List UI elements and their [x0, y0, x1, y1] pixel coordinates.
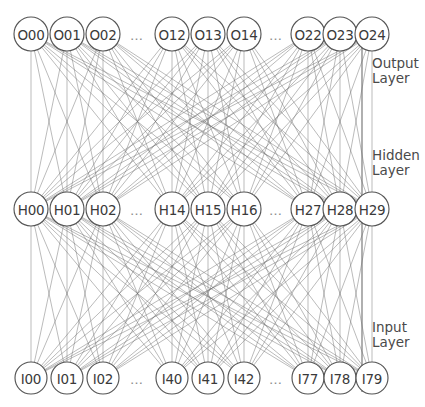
node-label: I02 — [93, 371, 113, 387]
node-label: O22 — [295, 27, 322, 43]
edge — [116, 219, 326, 369]
node-ellipsis: … — [269, 28, 283, 43]
edge — [46, 218, 295, 370]
edge — [183, 222, 298, 365]
output-layer-label-line1: Output — [372, 56, 419, 71]
edge — [184, 220, 359, 368]
node-label: O02 — [90, 27, 117, 43]
node-label: H28 — [327, 202, 353, 218]
node-label: I42 — [234, 371, 254, 387]
edge — [117, 219, 327, 369]
node-ellipsis: … — [130, 203, 144, 218]
edge — [218, 222, 330, 365]
edge — [252, 224, 332, 364]
edge — [182, 222, 297, 365]
node-label: I01 — [57, 371, 77, 387]
node-label: H29 — [359, 202, 385, 218]
node-label: I78 — [330, 371, 350, 387]
hidden-layer-label: HiddenLayer — [372, 148, 420, 178]
edge — [114, 222, 234, 366]
input-layer-label-line2: Layer — [372, 335, 410, 350]
node-label: H16 — [231, 202, 257, 218]
hidden-layer-label-line1: Hidden — [372, 148, 420, 163]
edge-group-input-to-hidden — [31, 217, 372, 371]
node-label: H00 — [18, 202, 44, 218]
node-label: H14 — [159, 202, 185, 218]
node-label: H01 — [54, 202, 80, 218]
edge — [254, 223, 362, 366]
node-label: I79 — [362, 371, 382, 387]
edge — [82, 217, 358, 370]
node-label: H02 — [90, 202, 116, 218]
node-ellipsis: … — [269, 203, 283, 218]
node-label: O12 — [159, 27, 186, 43]
edge — [218, 222, 330, 365]
node-label: O23 — [327, 27, 354, 43]
edge — [254, 223, 362, 366]
node-ellipsis: … — [130, 372, 144, 387]
edge — [252, 224, 332, 364]
edge — [109, 225, 166, 363]
node-label: I77 — [298, 371, 318, 387]
node-ellipsis: … — [130, 28, 144, 43]
network-diagram-canvas: O00O01O02…O12O13O14…O22O23O24H00H01H02…H… — [0, 0, 425, 407]
output-layer-label: OutputLayer — [372, 56, 419, 86]
hidden-layer-label-line2: Layer — [372, 163, 420, 178]
node-label: I00 — [21, 371, 41, 387]
input-layer-label-line1: Input — [372, 320, 410, 335]
node-label: I40 — [162, 371, 182, 387]
node-label: O13 — [195, 27, 222, 43]
node-label: O24 — [359, 27, 386, 43]
node-label: O00 — [18, 27, 45, 43]
node-label: H27 — [295, 202, 321, 218]
edge — [46, 217, 326, 370]
edge-group-hidden-to-output — [31, 42, 372, 201]
input-layer-label: InputLayer — [372, 320, 410, 350]
node-label: H15 — [195, 202, 221, 218]
network-diagram-svg: O00O01O02…O12O13O14…O22O23O24H00H01H02…H… — [0, 0, 425, 407]
node-label: O14 — [231, 27, 258, 43]
edge — [75, 223, 163, 364]
node-ellipsis: … — [269, 372, 283, 387]
output-layer-label-line2: Layer — [372, 71, 419, 86]
node-label: I41 — [198, 371, 218, 387]
node-label: O01 — [54, 27, 81, 43]
